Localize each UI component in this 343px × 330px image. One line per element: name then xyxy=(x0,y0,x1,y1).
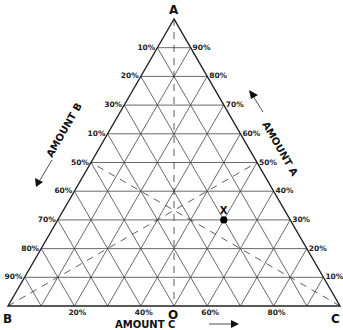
right-tick-label: 60% xyxy=(242,129,260,138)
right-tick-label: 30% xyxy=(292,215,310,224)
right-tick-label: 10% xyxy=(325,272,343,281)
axis-c-label: AMOUNT C xyxy=(115,319,175,330)
axis-b-label: AMOUNT B xyxy=(44,101,84,159)
bottom-tick-label: 40% xyxy=(135,308,153,317)
bottom-tick-label: 60% xyxy=(201,308,219,317)
left-tick-label: 90% xyxy=(5,272,23,281)
left-tick-label: 30% xyxy=(104,100,122,109)
grid-line xyxy=(58,220,108,306)
axis-c-arrow-icon xyxy=(209,320,239,328)
grid-line xyxy=(157,48,306,306)
vertex-c-label: C xyxy=(331,312,340,326)
left-tick-label: 10% xyxy=(88,129,106,138)
left-tick-label: 50% xyxy=(71,158,89,167)
right-tick-label: 40% xyxy=(276,186,294,195)
left-tick-label: 10% xyxy=(137,43,155,52)
axis-b-group: AMOUNT B xyxy=(44,101,84,159)
grid-line xyxy=(41,48,190,306)
right-tick-label: 80% xyxy=(209,71,227,80)
grid-line xyxy=(240,220,290,306)
axis-a-arrow-icon xyxy=(249,90,263,112)
left-tick-label: 70% xyxy=(38,215,56,224)
right-tick-labels: 90%80%70%60%50%40%30%20%10% xyxy=(193,43,343,282)
bottom-tick-label: 80% xyxy=(268,308,286,317)
left-tick-label: 20% xyxy=(121,71,139,80)
vertex-b-label: B xyxy=(3,312,12,326)
bottom-tick-label: 20% xyxy=(68,308,86,317)
left-tick-labels: 10%20%30%10%50%60%70%80%90% xyxy=(5,43,156,282)
left-tick-label: 60% xyxy=(54,186,72,195)
point-x-label: X xyxy=(220,205,228,216)
vertex-a-label: A xyxy=(169,3,179,17)
ternary-diagram: A B C O 10%20%30%10%50%60%70%80%90% 90%8… xyxy=(0,0,343,330)
right-tick-label: 50% xyxy=(259,158,277,167)
axis-a-group: AMOUNT A xyxy=(260,120,300,178)
axis-b-arrow-icon xyxy=(35,160,52,187)
right-tick-label: 90% xyxy=(193,43,211,52)
axis-a-label: AMOUNT A xyxy=(260,120,300,178)
left-tick-label: 80% xyxy=(21,244,39,253)
right-tick-label: 20% xyxy=(309,244,327,253)
right-tick-label: 70% xyxy=(226,100,244,109)
point-x-marker xyxy=(220,216,227,223)
